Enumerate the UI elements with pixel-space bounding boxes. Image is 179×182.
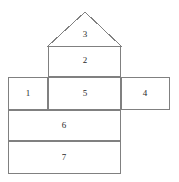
net-diagram: 1234567 bbox=[0, 0, 179, 182]
face-label-2: 2 bbox=[83, 56, 88, 65]
face-label-5: 5 bbox=[83, 89, 88, 98]
face-label-6: 6 bbox=[62, 121, 67, 130]
face-label-3: 3 bbox=[83, 30, 88, 39]
face-label-7: 7 bbox=[62, 153, 67, 162]
face-label-1: 1 bbox=[26, 89, 31, 98]
face-label-4: 4 bbox=[143, 89, 148, 98]
